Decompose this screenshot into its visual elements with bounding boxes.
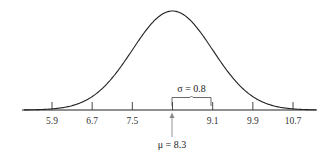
bell-curve [24,11,316,110]
sigma-label: σ = 0.8 [177,83,206,94]
x-tick-label: 6.7 [86,116,98,126]
normal-curve-chart: 5.96.77.59.19.910.7 σ = 0.8 μ = 8.3 [0,0,330,158]
sigma-brace [172,96,211,106]
x-axis-ticks: 5.96.77.59.19.910.7 [46,102,302,126]
x-tick-label: 9.1 [207,116,219,126]
mean-label: μ = 8.3 [158,139,187,150]
x-tick-label: 9.9 [247,116,259,126]
x-tick-label: 10.7 [285,116,302,126]
x-tick-label: 7.5 [126,116,138,126]
x-tick-label: 5.9 [46,116,58,126]
mean-arrowhead [170,113,175,119]
